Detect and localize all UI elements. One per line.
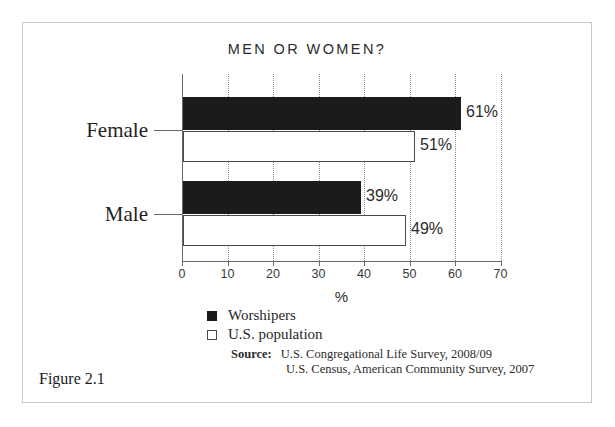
xtick-50: [410, 261, 411, 266]
legend-label-worshipers: Worshipers: [228, 307, 296, 324]
bar-label-male-population: 49%: [411, 220, 443, 238]
xtick-70: [501, 261, 502, 266]
category-label-male: Male: [54, 202, 148, 227]
legend-swatch-filled-square-icon: [207, 311, 217, 321]
bar-label-female-worshipers: 61%: [466, 103, 498, 121]
category-label-female: Female: [54, 118, 148, 143]
xtick-20: [273, 261, 274, 266]
figure-caption: Figure 2.1: [39, 370, 105, 388]
source-note: Source:U.S. Congregational Life Survey, …: [231, 347, 534, 377]
xticklabel-20: 20: [266, 267, 280, 281]
xtick-60: [455, 261, 456, 266]
xticklabel-70: 70: [494, 267, 508, 281]
legend-item-worshipers: Worshipers: [207, 306, 323, 325]
source-line-1: Source:U.S. Congregational Life Survey, …: [231, 347, 534, 362]
legend-swatch-open-square-icon: [207, 330, 217, 340]
gridline-70: [501, 74, 502, 261]
x-axis-title: %: [182, 288, 501, 305]
xticklabel-40: 40: [357, 267, 371, 281]
category-tick-female: [154, 130, 182, 131]
bar-label-female-population: 51%: [420, 136, 452, 154]
bar-male-worshipers: [183, 181, 361, 214]
xticklabel-0: 0: [179, 267, 186, 281]
category-tick-male: [154, 214, 182, 215]
plot-area: 0 10 20 30 40 50 60 70 61% 51% 39% 49%: [182, 74, 501, 261]
xticklabel-50: 50: [403, 267, 417, 281]
legend-item-us-population: U.S. population: [207, 325, 323, 344]
legend-label-us-population: U.S. population: [228, 326, 323, 343]
bar-male-population: [183, 215, 406, 246]
chart-title: MEN OR WOMEN?: [23, 41, 591, 57]
figure-frame: MEN OR WOMEN? 0 10 20 30 40 50 60 70 61%: [22, 22, 592, 403]
xticklabel-60: 60: [448, 267, 462, 281]
xtick-0: [182, 261, 183, 266]
xticklabel-10: 10: [221, 267, 235, 281]
legend: Worshipers U.S. population: [207, 306, 323, 344]
xtick-10: [228, 261, 229, 266]
xtick-40: [364, 261, 365, 266]
source-text-1: U.S. Congregational Life Survey, 2008/09: [281, 347, 492, 361]
xtick-30: [319, 261, 320, 266]
bar-female-population: [183, 131, 415, 162]
bar-female-worshipers: [183, 97, 461, 130]
x-axis-line: [182, 261, 502, 262]
xticklabel-30: 30: [312, 267, 326, 281]
source-line-2: U.S. Census, American Community Survey, …: [286, 362, 534, 377]
bar-label-male-worshipers: 39%: [366, 187, 398, 205]
source-label: Source:: [231, 347, 272, 361]
